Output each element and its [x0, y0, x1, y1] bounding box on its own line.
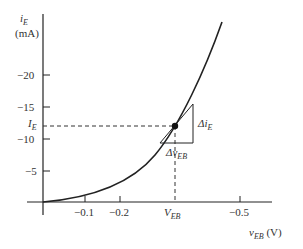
- characteristic-plot: [0, 0, 303, 249]
- y-axis-unit: (mA): [15, 28, 39, 39]
- x-tick-label-01: −0.1: [74, 207, 94, 218]
- operating-point: [172, 123, 178, 129]
- x-tick-label-05: −0.5: [229, 207, 249, 218]
- ie-veb-curve: [43, 22, 222, 202]
- delta-veb-label: ΔvEB: [166, 147, 187, 158]
- y-tick-label-20: −20: [17, 70, 34, 81]
- ie-label: IE: [28, 118, 37, 129]
- y-tick-label-5: −5: [25, 166, 37, 177]
- x-axis-label: vEB (V): [249, 227, 282, 238]
- y-tick-label-10: −10: [17, 134, 34, 145]
- veb-label: VEB: [164, 207, 181, 218]
- y-axis-label: iE: [20, 13, 28, 24]
- delta-ie-label: ΔiE: [198, 118, 212, 129]
- y-tick-label-15: −15: [17, 102, 34, 113]
- x-tick-label-02: −0.2: [109, 207, 129, 218]
